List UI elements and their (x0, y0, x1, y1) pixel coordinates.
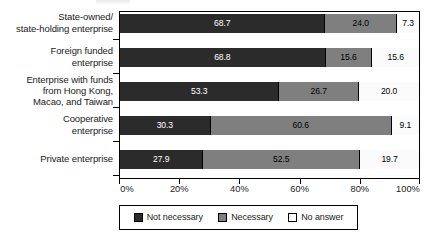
bar-segment: 26.7 (279, 82, 359, 101)
category-label-line: state-holding enterprise (0, 23, 113, 34)
y-axis-category-label: Cooperativeenterprise (0, 113, 113, 135)
bar-segment: 7.3 (397, 14, 419, 33)
x-axis-tick-label: 40% (230, 184, 249, 195)
x-axis-tick-label: 0% (120, 184, 133, 195)
bar-segment: 20.0 (359, 82, 419, 101)
category-label-line: enterprise (0, 57, 113, 68)
scan-artifact (96, 0, 130, 5)
bar-value-label: 20.0 (381, 87, 397, 96)
x-axis-tick-label: 60% (290, 184, 309, 195)
bar-value-label: 68.7 (214, 19, 230, 28)
bar-value-label: 27.9 (153, 155, 169, 164)
legend-item: Necessary (218, 213, 273, 222)
bar-value-label: 68.8 (214, 53, 230, 62)
bar-segment: 24.0 (325, 14, 397, 33)
x-axis-tick-label: 80% (350, 184, 369, 195)
legend-label: Not necessary (147, 213, 203, 222)
bar-value-label: 15.6 (340, 53, 356, 62)
bar-segment: 15.6 (326, 48, 373, 67)
bar-segment: 19.7 (360, 150, 419, 169)
bar-value-label: 26.7 (311, 87, 327, 96)
plot-area: 68.724.07.368.815.615.653.326.720.030.36… (119, 11, 420, 179)
y-axis-category-label: Foreign fundedenterprise (0, 45, 113, 67)
bar-value-label: 7.3 (402, 19, 414, 28)
category-label-line: Private enterprise (0, 153, 113, 164)
y-axis-category-labels: State-owned/state-holding enterpriseFore… (0, 11, 116, 179)
bar-segment: 27.9 (120, 150, 203, 169)
category-label-line: enterprise (0, 125, 113, 136)
stacked-bar-chart: State-owned/state-holding enterpriseFore… (0, 0, 434, 242)
bar-row: 27.952.519.7 (120, 150, 419, 169)
y-axis-category-label: State-owned/state-holding enterprise (0, 11, 113, 33)
bar-value-label: 24.0 (353, 19, 369, 28)
bar-segment: 15.6 (372, 48, 419, 67)
bar-segment: 60.6 (211, 116, 392, 135)
category-label-line: Foreign funded (0, 45, 113, 56)
bar-value-label: 9.1 (400, 121, 412, 130)
bar-row: 68.724.07.3 (120, 14, 419, 33)
bar-value-label: 52.5 (273, 155, 289, 164)
bar-segment: 68.7 (120, 14, 325, 33)
bar-value-label: 19.7 (381, 155, 397, 164)
bar-row: 53.326.720.0 (120, 82, 419, 101)
legend-label: Necessary (231, 213, 273, 222)
bar-value-label: 60.6 (293, 121, 309, 130)
category-label-line: Enterprise with funds (0, 74, 113, 85)
bar-segment: 9.1 (392, 116, 419, 135)
x-axis-tick-label: 100% (396, 184, 420, 195)
bar-segment: 53.3 (120, 82, 279, 101)
bar-value-label: 15.6 (388, 53, 404, 62)
bar-segment: 30.3 (120, 116, 211, 135)
bar-row: 30.360.69.1 (120, 116, 419, 135)
y-axis-category-label: Enterprise with fundsfrom Hong Kong,Maca… (0, 74, 113, 108)
bar-row: 68.815.615.6 (120, 48, 419, 67)
category-label-line: Macao, and Taiwan (0, 96, 113, 107)
y-axis-category-label: Private enterprise (0, 153, 113, 164)
bar-value-label: 30.3 (157, 121, 173, 130)
legend-swatch-icon (288, 213, 297, 222)
x-axis-tick-label: 20% (170, 184, 189, 195)
legend-item: Not necessary (134, 213, 203, 222)
bar-segment: 68.8 (120, 48, 326, 67)
bar-segment: 52.5 (203, 150, 360, 169)
legend-swatch-icon (134, 213, 143, 222)
legend-item: No answer (288, 213, 343, 222)
legend-label: No answer (301, 213, 343, 222)
category-label-line: Cooperative (0, 113, 113, 124)
legend-swatch-icon (218, 213, 227, 222)
category-label-line: from Hong Kong, (0, 85, 113, 96)
category-label-line: State-owned/ (0, 11, 113, 22)
chart-legend: Not necessaryNecessaryNo answer (119, 205, 358, 230)
bar-value-label: 53.3 (191, 87, 207, 96)
